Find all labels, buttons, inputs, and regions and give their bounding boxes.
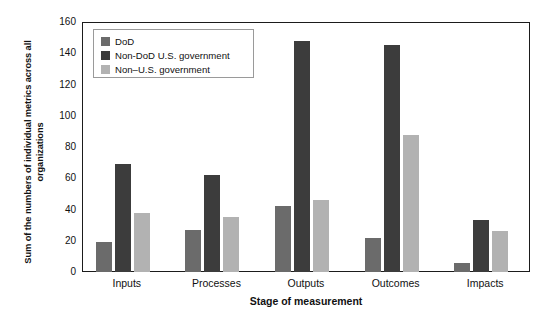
bar (275, 206, 291, 272)
legend-swatch-icon (101, 51, 110, 60)
legend-item: DoD (101, 34, 247, 48)
x-tick-label: Outcomes (351, 277, 441, 289)
bar (403, 135, 419, 273)
x-tick-label: Inputs (82, 277, 172, 289)
legend-label: DoD (115, 36, 134, 47)
y-tick-label: 80 (36, 142, 76, 152)
y-tick-label: 120 (36, 80, 76, 90)
y-tick-label: 160 (36, 17, 76, 27)
legend-item: Non–U.S. government (101, 62, 247, 76)
y-tick-label: 0 (36, 267, 76, 277)
legend-label: Non–U.S. government (115, 64, 210, 75)
y-tick-label: 60 (36, 173, 76, 183)
legend-label: Non-DoD U.S. government (115, 50, 230, 61)
legend: DoDNon-DoD U.S. governmentNon–U.S. gover… (93, 29, 254, 78)
y-tick-label: 40 (36, 205, 76, 215)
bar (204, 175, 220, 272)
bar-chart: Sum of the numbers of individual metrics… (0, 0, 538, 317)
bar (96, 242, 112, 272)
bar (492, 231, 508, 272)
legend-swatch-icon (101, 37, 110, 46)
x-tick-label: Processes (172, 277, 262, 289)
bar (294, 41, 310, 272)
x-tick-label: Outputs (261, 277, 351, 289)
y-tick-label: 140 (36, 48, 76, 58)
x-tick-label: Impacts (440, 277, 530, 289)
bar (185, 230, 201, 272)
y-tick-label: 20 (36, 236, 76, 246)
bar (365, 238, 381, 272)
bar (473, 220, 489, 272)
legend-item: Non-DoD U.S. government (101, 48, 247, 62)
bar (134, 213, 150, 272)
bar (223, 217, 239, 272)
bar (454, 263, 470, 272)
legend-swatch-icon (101, 65, 110, 74)
y-tick-label: 100 (36, 111, 76, 121)
x-axis-title: Stage of measurement (82, 295, 530, 307)
bar (115, 164, 131, 272)
bar (384, 45, 400, 272)
bar (313, 200, 329, 272)
